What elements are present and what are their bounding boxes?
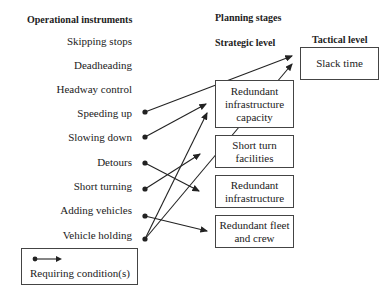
- box-redundant-infrastructure: Redundant infrastructure: [215, 175, 294, 208]
- dot-speeding-up: [142, 109, 147, 114]
- dot-short-turning: [142, 186, 147, 191]
- box-redundant-fleet-and-crew: Redundant fleet and crew: [215, 215, 294, 248]
- dot-adding-vehicles: [142, 213, 147, 218]
- box-slack-time: Slack time: [300, 47, 379, 80]
- dot-vehicle-holding: [142, 236, 147, 241]
- dot-detours: [142, 160, 147, 165]
- legend-label: Requiring condition(s): [30, 267, 130, 279]
- legend-arrow-icon: [32, 251, 92, 267]
- box-short-turn-facilities: Short turn facilities: [215, 135, 294, 168]
- legend: Requiring condition(s): [21, 248, 138, 285]
- dot-slowing-down: [142, 134, 147, 139]
- box-redundant-infrastructure-capacity: Redundant infrastructure capacity: [215, 80, 294, 128]
- arrow-detours-to-redundant-infrastructure: [145, 163, 199, 191]
